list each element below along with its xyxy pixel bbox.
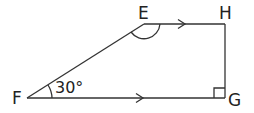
angle-arc-e-icon xyxy=(131,24,160,39)
trapezium-diagram: E H G F 30° xyxy=(0,0,254,113)
angle-arc-f-icon xyxy=(48,85,52,98)
vertex-label-g: G xyxy=(228,90,241,110)
angle-label-f: 30° xyxy=(55,78,83,97)
side-fe xyxy=(27,24,144,98)
vertex-label-h: H xyxy=(219,3,232,23)
vertex-label-e: E xyxy=(138,3,149,23)
right-angle-g-icon xyxy=(214,88,225,98)
vertex-label-f: F xyxy=(12,88,22,108)
